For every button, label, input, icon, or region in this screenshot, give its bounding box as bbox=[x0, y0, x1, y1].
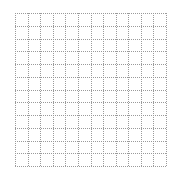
grid-vertical-line bbox=[153, 13, 154, 166]
grid-horizontal-line bbox=[15, 166, 166, 167]
grid-vertical-line bbox=[78, 13, 79, 166]
grid-vertical-line bbox=[116, 13, 117, 166]
grid-vertical-line bbox=[166, 13, 167, 166]
grid-vertical-line bbox=[103, 13, 104, 166]
grid-vertical-line bbox=[53, 13, 54, 166]
grid-vertical-line bbox=[15, 13, 16, 166]
grid-vertical-line bbox=[65, 13, 66, 166]
grid-vertical-line bbox=[128, 13, 129, 166]
grid-vertical-line bbox=[141, 13, 142, 166]
grid-vertical-line bbox=[40, 13, 41, 166]
dotted-grid bbox=[15, 13, 166, 166]
grid-vertical-line bbox=[91, 13, 92, 166]
grid-vertical-line bbox=[28, 13, 29, 166]
